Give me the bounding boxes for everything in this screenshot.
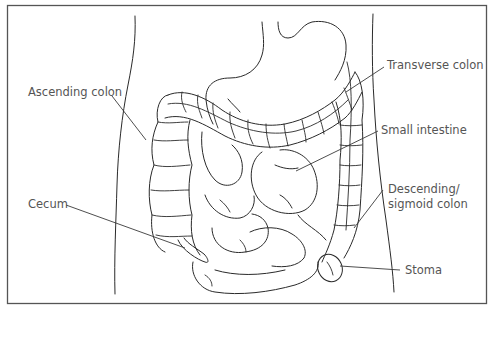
label-descending-colon-line1: Descending/ — [388, 183, 460, 196]
label-descending-colon-line2: sigmoid colon — [388, 198, 468, 211]
leader-cecum — [66, 205, 185, 248]
small-intestine — [192, 132, 326, 294]
anatomy-diagram — [0, 0, 491, 337]
leader-stoma — [340, 266, 400, 270]
figure-frame — [8, 6, 487, 304]
transverse-colon — [165, 72, 362, 148]
label-small-intestine: Small intestine — [381, 124, 467, 137]
ascending-colon — [149, 95, 208, 262]
leader-descending-colon — [354, 190, 383, 228]
stomach — [206, 21, 346, 124]
label-transverse-colon: Transverse colon — [387, 59, 484, 72]
label-cecum: Cecum — [28, 198, 68, 211]
leader-small-intestine — [296, 131, 378, 171]
leader-transverse-colon — [346, 67, 384, 92]
label-stoma: Stoma — [405, 264, 442, 277]
torso-outline — [115, 14, 394, 294]
leader-ascending-colon — [112, 96, 146, 140]
label-ascending-colon: Ascending colon — [28, 86, 122, 99]
